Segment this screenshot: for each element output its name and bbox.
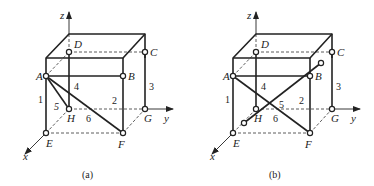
member-label-2: 2 [112,95,117,106]
x-axis-label: x [22,150,28,162]
node-label-E: E [45,137,53,149]
hidden-edges [46,34,145,133]
panel-b: z y x A B C D E F G H 1 2 3 4 5 6 (b) [209,9,360,181]
node-label-H: H [253,112,263,124]
node-H [253,106,258,111]
node-A [230,73,235,78]
node-D [253,49,258,54]
y-axis-label: y [350,112,356,124]
node-label-E: E [232,137,240,149]
hidden-edges [233,34,332,133]
node-label-G: G [331,112,339,124]
member-label-3: 3 [149,81,154,92]
truss-members [46,52,145,133]
member-label-3: 3 [336,81,341,92]
z-axis-label: z [59,9,65,21]
member-label-5: 5 [54,101,59,112]
member-6-end-lower [241,120,246,125]
figure-canvas: z y x A B C D E F G H 1 2 3 4 5 6 (a) [0,0,374,186]
node-C [329,49,334,54]
node-A [43,73,48,78]
node-label-F: F [304,138,312,150]
panel-a: z y x A B C D E F G H 1 2 3 4 5 6 (a) [22,9,173,181]
member-label-6: 6 [273,113,278,124]
member-label-1: 1 [38,94,43,105]
node-D [66,49,71,54]
node-label-D: D [260,38,269,50]
node-label-C: C [150,46,158,58]
node-B [120,73,125,78]
node-label-C: C [337,46,345,58]
x-axis-label: x [209,150,215,162]
node-E [43,130,48,135]
node-label-A: A [222,70,230,82]
node-F [307,130,312,135]
node-label-D: D [73,38,82,50]
y-axis-label: y [163,112,169,124]
caption-b: (b) [269,169,281,181]
member-6-end-upper [318,60,323,65]
node-label-A: A [35,70,43,82]
node-C [142,49,147,54]
node-label-G: G [144,112,152,124]
truss-members [233,52,332,133]
member-label-1: 1 [225,94,230,105]
x-axis [25,133,46,154]
node-label-F: F [117,138,125,150]
node-H [66,106,71,111]
node-label-B: B [128,70,135,82]
node-E [230,130,235,135]
member-label-2: 2 [299,95,304,106]
member-label-4: 4 [74,81,79,92]
nodes [43,49,147,135]
x-axis [212,133,233,154]
node-label-B: B [315,70,322,82]
node-label-H: H [66,112,76,124]
member-label-5: 5 [279,99,284,110]
node-F [120,130,125,135]
node-G [329,106,334,111]
z-axis-label: z [246,9,252,21]
node-B [307,73,312,78]
node-G [142,106,147,111]
member-label-6: 6 [86,113,91,124]
member-label-4: 4 [261,81,266,92]
caption-a: (a) [82,169,93,181]
